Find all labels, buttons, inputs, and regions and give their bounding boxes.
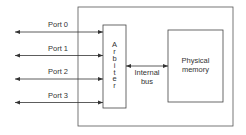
port-2-label: Port 2: [44, 68, 72, 76]
port-0-label: Port 0: [44, 21, 72, 29]
arbiter-letter: r: [103, 82, 126, 90]
port-1-label: Port 1: [44, 45, 72, 53]
port-3-label: Port 3: [44, 92, 72, 100]
internal-bus-label-line2: bus: [128, 78, 166, 86]
internal-bus-label-line1: Internal: [128, 69, 166, 77]
physical-memory-label-line2: memory: [168, 66, 223, 74]
physical-memory-label-line1: Physical: [168, 57, 223, 65]
